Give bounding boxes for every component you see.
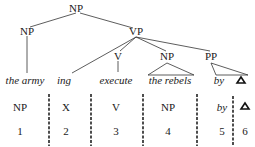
leaf-by: by [214,74,225,86]
delta-icon-category [241,103,249,109]
leaf-ing: ing [57,74,72,86]
index-6: 6 [242,125,248,137]
node-pp: PP [205,50,217,62]
node-root-np: NP [69,2,83,14]
category-np-2: NP [161,101,175,113]
branch-root-vp [80,13,133,28]
leaf-the-rebels: the rebels [149,74,192,86]
index-2: 2 [63,125,69,137]
category-v: V [112,101,120,113]
category-np: NP [13,101,27,113]
branch-vp-v [120,37,136,51]
node-vp: VP [129,25,143,37]
category-x: X [62,101,70,113]
branch-vp-np [136,37,166,51]
index-5: 5 [219,125,225,137]
index-3: 3 [113,125,119,137]
syntax-tree-diagram: NP NP VP V NP PP the army ing execute th… [0,0,255,147]
branch-vp-pp [136,37,210,51]
branch-root-np [30,13,76,27]
node-np: NP [20,25,34,37]
category-by: by [217,101,228,113]
leaf-execute: execute [100,74,133,86]
branch-vp-ing [72,37,136,73]
index-1: 1 [17,125,23,137]
node-v: V [114,50,122,62]
node-np-object: NP [160,50,174,62]
delta-icon [237,77,245,83]
leaf-the-army: the army [6,74,45,86]
index-4: 4 [165,125,171,137]
